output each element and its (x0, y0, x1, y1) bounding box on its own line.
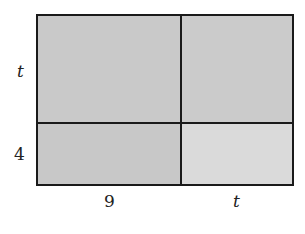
vertical-divider (180, 15, 182, 185)
label-left-top: t (17, 63, 24, 80)
label-bottom-left: 9 (104, 193, 115, 210)
label-bottom-right: t (233, 193, 240, 210)
outer-rectangle-border (36, 14, 294, 186)
horizontal-divider (37, 122, 293, 124)
label-left-bottom: 4 (14, 146, 25, 163)
